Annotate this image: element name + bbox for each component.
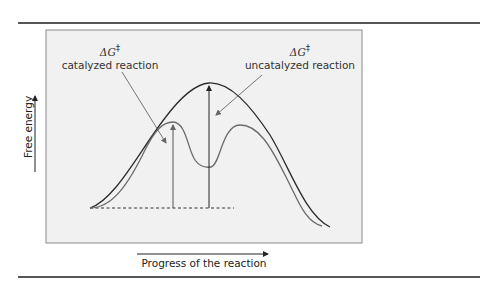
delta-g-symbol: ΔG‡	[240, 42, 360, 59]
delta-g-symbol: ΔG‡	[50, 42, 170, 59]
catalyzed-text: catalyzed reaction	[50, 59, 170, 72]
uncatalyzed-text: uncatalyzed reaction	[240, 59, 360, 72]
uncatalyzed-label: ΔG‡ uncatalyzed reaction	[240, 42, 360, 72]
x-axis-label: Progress of the reaction	[138, 257, 270, 269]
catalyzed-label: ΔG‡ catalyzed reaction	[50, 42, 170, 72]
y-axis-label: Free energy	[22, 87, 34, 167]
